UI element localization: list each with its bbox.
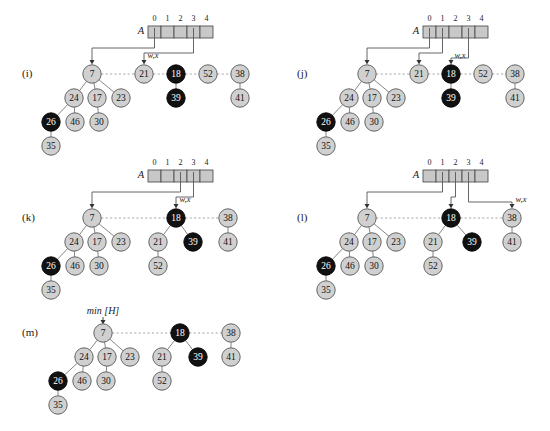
- heap-node-l-39[interactable]: 39: [463, 233, 481, 251]
- node-label: 24: [344, 93, 354, 103]
- heap-node-l-35[interactable]: 35: [317, 281, 335, 299]
- heap-node-j-24[interactable]: 24: [340, 89, 358, 107]
- heap-node-m-17[interactable]: 17: [98, 348, 116, 366]
- heap-node-l-30[interactable]: 30: [365, 257, 383, 275]
- child-link: [355, 81, 362, 90]
- heap-node-l-46[interactable]: 46: [341, 257, 359, 275]
- heap-node-i-7[interactable]: 7: [83, 65, 101, 83]
- heap-node-k-46[interactable]: 46: [66, 257, 84, 275]
- heap-node-l-24[interactable]: 24: [340, 233, 358, 251]
- heap-node-l-38[interactable]: 38: [503, 209, 521, 227]
- array-cell-4[interactable]: [200, 26, 213, 38]
- heap-node-m-21[interactable]: 21: [153, 348, 171, 366]
- heap-node-k-41[interactable]: 41: [219, 233, 237, 251]
- panel-l: (l)01234Aw,x718382417232646303521395241: [297, 158, 527, 299]
- heap-node-i-17[interactable]: 17: [88, 89, 106, 107]
- array-cell-4[interactable]: [475, 26, 488, 38]
- heap-node-i-30[interactable]: 30: [90, 113, 108, 131]
- heap-node-l-23[interactable]: 23: [387, 233, 405, 251]
- heap-node-k-17[interactable]: 17: [88, 233, 106, 251]
- child-link: [164, 225, 171, 234]
- panel-label-l: (l): [297, 211, 308, 224]
- heap-node-l-26[interactable]: 26: [317, 257, 335, 275]
- heap-node-j-35[interactable]: 35: [317, 137, 335, 155]
- heap-node-k-39[interactable]: 39: [184, 233, 202, 251]
- array-cell-2[interactable]: [174, 26, 187, 38]
- heap-node-m-46[interactable]: 46: [73, 372, 91, 390]
- heap-node-k-52[interactable]: 52: [149, 257, 167, 275]
- heap-node-m-26[interactable]: 26: [49, 372, 67, 390]
- node-label: 24: [69, 93, 79, 103]
- heap-node-i-52[interactable]: 52: [199, 65, 217, 83]
- array-cell-1[interactable]: [161, 26, 174, 38]
- heap-node-j-39[interactable]: 39: [442, 89, 460, 107]
- nodes-j: 721185238241723264630353941: [317, 65, 524, 155]
- heap-node-k-7[interactable]: 7: [83, 209, 101, 227]
- array-index-label-0: 0: [153, 14, 157, 23]
- heap-node-i-24[interactable]: 24: [65, 89, 83, 107]
- heap-node-j-17[interactable]: 17: [363, 89, 381, 107]
- heap-node-j-41[interactable]: 41: [506, 89, 524, 107]
- node-label: 7: [90, 69, 95, 79]
- heap-node-l-17[interactable]: 17: [363, 233, 381, 251]
- array-cell-4[interactable]: [200, 170, 213, 182]
- heap-node-l-52[interactable]: 52: [424, 257, 442, 275]
- heap-node-i-41[interactable]: 41: [231, 89, 249, 107]
- node-label: 23: [116, 237, 126, 247]
- heap-node-j-23[interactable]: 23: [387, 89, 405, 107]
- array-cell-0[interactable]: [148, 170, 161, 182]
- node-label: 23: [391, 237, 401, 247]
- heap-node-i-35[interactable]: 35: [42, 137, 60, 155]
- heap-node-i-23[interactable]: 23: [112, 89, 130, 107]
- heap-node-m-18[interactable]: 18: [171, 324, 189, 342]
- heap-node-l-7[interactable]: 7: [358, 209, 376, 227]
- heap-node-j-46[interactable]: 46: [341, 113, 359, 131]
- heap-node-j-30[interactable]: 30: [365, 113, 383, 131]
- heap-node-j-21[interactable]: 21: [410, 65, 428, 83]
- heap-node-k-18[interactable]: 18: [167, 209, 185, 227]
- node-label: 52: [203, 69, 213, 79]
- heap-node-i-39[interactable]: 39: [167, 89, 185, 107]
- heap-node-l-18[interactable]: 18: [442, 209, 460, 227]
- node-label: 18: [446, 69, 456, 79]
- heap-node-i-46[interactable]: 46: [66, 113, 84, 131]
- panel-label-j: (j): [297, 67, 308, 80]
- heap-node-i-18[interactable]: 18: [167, 65, 185, 83]
- heap-node-m-23[interactable]: 23: [121, 348, 139, 366]
- heap-node-k-21[interactable]: 21: [149, 233, 167, 251]
- heap-node-j-18[interactable]: 18: [442, 65, 460, 83]
- heap-node-m-7[interactable]: 7: [94, 324, 112, 342]
- node-label: 30: [369, 117, 379, 127]
- heap-node-k-38[interactable]: 38: [219, 209, 237, 227]
- heap-node-j-26[interactable]: 26: [317, 113, 335, 131]
- array-cell-2[interactable]: [449, 26, 462, 38]
- array-pointer-0[interactable]: [92, 28, 155, 62]
- heap-node-j-38[interactable]: 38: [506, 65, 524, 83]
- heap-node-l-41[interactable]: 41: [503, 233, 521, 251]
- heap-node-m-30[interactable]: 30: [97, 372, 115, 390]
- heap-node-k-35[interactable]: 35: [42, 281, 60, 299]
- heap-node-l-21[interactable]: 21: [424, 233, 442, 251]
- child-link: [457, 225, 466, 235]
- figure-canvas: (i)01234Aw,x721185238241723264630353941(…: [0, 0, 550, 431]
- heap-node-m-41[interactable]: 41: [222, 348, 240, 366]
- heap-node-j-7[interactable]: 7: [358, 65, 376, 83]
- array-index-label-1: 1: [166, 14, 170, 23]
- heap-node-k-24[interactable]: 24: [65, 233, 83, 251]
- array-cell-1[interactable]: [161, 170, 174, 182]
- heap-node-m-38[interactable]: 38: [222, 324, 240, 342]
- heap-node-i-38[interactable]: 38: [231, 65, 249, 83]
- array-pointer-0[interactable]: [367, 28, 430, 62]
- heap-node-i-26[interactable]: 26: [42, 113, 60, 131]
- heap-node-j-52[interactable]: 52: [474, 65, 492, 83]
- heap-node-i-21[interactable]: 21: [135, 65, 153, 83]
- array-cell-4[interactable]: [475, 170, 488, 182]
- heap-node-m-24[interactable]: 24: [75, 348, 93, 366]
- heap-node-k-23[interactable]: 23: [112, 233, 130, 251]
- heap-node-m-35[interactable]: 35: [49, 396, 67, 414]
- heap-node-m-39[interactable]: 39: [189, 348, 207, 366]
- heap-node-m-52[interactable]: 52: [153, 372, 171, 390]
- heap-node-k-26[interactable]: 26: [42, 257, 60, 275]
- array-cell-0[interactable]: [423, 170, 436, 182]
- heap-node-k-30[interactable]: 30: [90, 257, 108, 275]
